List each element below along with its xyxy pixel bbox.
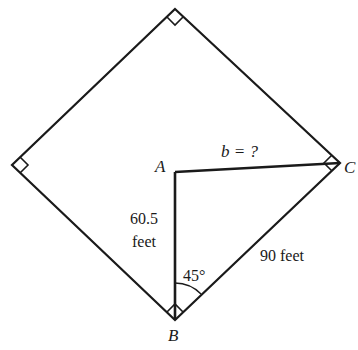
segment-ac xyxy=(175,163,340,172)
label-bc: 90 feet xyxy=(260,247,305,264)
label-b-unknown: b = ? xyxy=(221,142,258,161)
label-ab-value: 60.5 xyxy=(130,210,158,227)
label-a: A xyxy=(154,157,166,176)
label-ab-unit: feet xyxy=(132,233,157,250)
angle-arc-b xyxy=(175,283,201,294)
diagram-canvas: A B C b = ? 60.5 feet 90 feet 45° xyxy=(0,0,358,350)
right-angle-mark-top xyxy=(167,17,183,25)
label-angle-b: 45° xyxy=(183,267,205,284)
label-b: B xyxy=(168,326,179,345)
label-c: C xyxy=(344,158,356,177)
right-angle-mark-left xyxy=(20,157,28,173)
